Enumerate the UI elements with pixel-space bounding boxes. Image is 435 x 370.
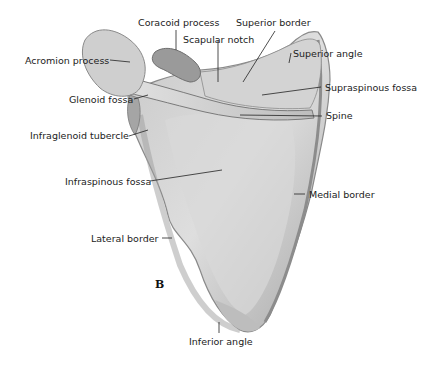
label-superior-border: Superior border xyxy=(236,18,311,28)
panel-letter: B xyxy=(155,278,164,291)
label-infraspinous-fossa: Infraspinous fossa xyxy=(65,177,151,187)
label-glenoid-fossa: Glenoid fossa xyxy=(69,95,133,105)
scapula-diagram: Coracoid process Superior border Scapula… xyxy=(0,0,435,370)
label-infraglenoid-tubercle: Infraglenoid tubercle xyxy=(30,131,129,141)
label-scapular-notch: Scapular notch xyxy=(183,35,254,45)
label-medial-border: Medial border xyxy=(309,190,375,200)
label-supraspinous-fossa: Supraspinous fossa xyxy=(325,83,417,93)
label-inferior-angle: Inferior angle xyxy=(189,337,253,347)
label-superior-angle: Superior angle xyxy=(293,49,363,59)
label-spine: Spine xyxy=(326,111,353,121)
label-coracoid-process: Coracoid process xyxy=(138,18,219,28)
label-lateral-border: Lateral border xyxy=(91,234,158,244)
label-acromion-process: Acromion process xyxy=(25,56,109,66)
